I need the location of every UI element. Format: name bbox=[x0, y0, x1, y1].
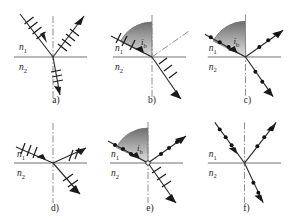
refracted-arrowhead bbox=[165, 194, 176, 203]
panel-caption-a: a) bbox=[52, 95, 59, 106]
medium-label-lower: n2 bbox=[111, 168, 119, 180]
panel-a: n1 n2 a) bbox=[0, 0, 97, 111]
refracted-polarization-ticks bbox=[63, 174, 78, 187]
refracted-arrowhead bbox=[254, 195, 263, 203]
reflected-polarization-ticks bbox=[58, 29, 79, 51]
refracted-arrowhead bbox=[69, 185, 80, 194]
incident-polarization-dots bbox=[218, 127, 234, 147]
brewster-angle-wedge bbox=[213, 21, 245, 57]
reflected-polarization-dots bbox=[159, 140, 179, 156]
medium-label-lower: n2 bbox=[17, 168, 25, 180]
panel-caption-b: b) bbox=[148, 95, 156, 106]
origin-marker bbox=[146, 161, 150, 165]
panel-caption-e: e) bbox=[146, 203, 153, 214]
medium-label-lower: n2 bbox=[209, 168, 217, 179]
reflected-polarization-dots bbox=[255, 126, 273, 148]
refracted-arrowhead bbox=[170, 90, 181, 99]
medium-label-upper: n1 bbox=[19, 42, 27, 54]
reflected-arrowhead bbox=[74, 16, 84, 25]
panel-e: ib n1 n2 e) bbox=[97, 111, 194, 222]
panel-b: ib n1 n2 b) bbox=[97, 0, 194, 111]
incident-arrowhead bbox=[36, 154, 46, 160]
medium-label-upper: n1 bbox=[209, 149, 217, 160]
refracted-polarization-ticks bbox=[159, 58, 177, 78]
medium-label-lower: n2 bbox=[209, 62, 217, 73]
medium-label-upper: n1 bbox=[111, 149, 119, 161]
panel-d: n1 n2 d) bbox=[0, 111, 97, 222]
refracted-polarization-ticks bbox=[152, 167, 171, 187]
reflected-polarization-dots bbox=[257, 32, 279, 49]
refracted-arrowhead bbox=[54, 86, 61, 95]
medium-label-lower: n2 bbox=[19, 62, 27, 74]
panel-f: n1 n2 f) bbox=[194, 111, 291, 222]
panel-caption-c: c) bbox=[244, 95, 251, 106]
panel-c: ib n1 n2 c) bbox=[194, 0, 291, 111]
medium-label-upper: n1 bbox=[209, 43, 217, 54]
medium-label-lower: n2 bbox=[115, 62, 123, 74]
medium-label-upper: n1 bbox=[115, 43, 123, 55]
panel-caption-f: f) bbox=[243, 203, 249, 214]
brewster-angle-wedge bbox=[117, 128, 149, 163]
figure-root: n1 n2 a) bbox=[0, 0, 292, 222]
reflected-ray bbox=[152, 31, 189, 57]
panel-caption-d: d) bbox=[51, 203, 59, 214]
incident-arrowhead bbox=[229, 147, 238, 154]
